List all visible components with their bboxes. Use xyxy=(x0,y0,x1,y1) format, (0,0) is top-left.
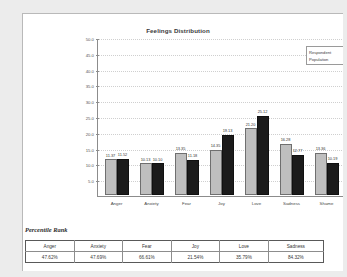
table-cell-percentile: 21.54% xyxy=(171,252,220,263)
bar-group: 14.3519.13Joy xyxy=(204,39,239,195)
percentile-rank-caption: Percentile Rank xyxy=(25,226,67,233)
table-column-header: Sadness xyxy=(268,241,323,252)
table-column-header: Fear xyxy=(123,241,172,252)
bar-slot: 13.35 xyxy=(175,39,187,195)
table-column-header: Anger xyxy=(26,241,75,252)
table-column-header: Joy xyxy=(171,241,220,252)
bar[interactable] xyxy=(210,150,222,195)
legend-label-respondent: Respondent xyxy=(309,50,342,55)
x-axis-category-label: Anxiety xyxy=(144,201,158,206)
bar[interactable] xyxy=(257,116,269,195)
bar-value-label: 10.19 xyxy=(328,156,338,161)
bar-slot: 11.52 xyxy=(117,39,129,195)
bar-slot: 10.10 xyxy=(152,39,164,195)
bar-value-label: 11.37 xyxy=(106,153,115,158)
bar[interactable] xyxy=(280,144,292,195)
x-axis-category-label: Love xyxy=(252,201,262,206)
legend-label-population: Population xyxy=(309,57,342,62)
table-column-header: Anxiety xyxy=(74,241,123,252)
bar-group: 21.2025.12Love xyxy=(239,39,274,195)
bar-value-label: 19.13 xyxy=(223,128,233,133)
bar[interactable] xyxy=(187,160,199,195)
chart-legend: Respondent Population xyxy=(306,46,343,65)
bar[interactable] xyxy=(245,128,257,195)
bar-slot: 12.77 xyxy=(292,39,304,195)
bar-slot: 11.18 xyxy=(187,39,199,195)
bar-value-label: 14.35 xyxy=(211,143,221,148)
bar-slot: 16.28 xyxy=(280,39,292,195)
bar-value-label: 25.12 xyxy=(258,109,268,114)
bar-group: 13.3511.18Fear xyxy=(169,39,204,195)
legend-item-respondent: Respondent xyxy=(309,49,343,56)
table-header-row: AngerAnxietyFearJoyLoveSadness xyxy=(26,241,324,252)
percentile-rank-table: AngerAnxietyFearJoyLoveSadness47.62%47.6… xyxy=(25,240,324,263)
x-axis-category-label: Anger xyxy=(111,201,123,206)
bar-slot: 21.20 xyxy=(245,39,257,195)
table-cell-percentile: 47.69% xyxy=(74,252,123,263)
bar[interactable] xyxy=(292,155,304,195)
bar[interactable] xyxy=(117,159,129,195)
bar[interactable] xyxy=(152,163,164,195)
document-page: Feelings Distribution 5.010.015.020.025.… xyxy=(22,13,343,271)
bar-value-label: 21.20 xyxy=(246,122,256,127)
bar-group: 11.3711.52Anger xyxy=(99,39,134,195)
bar-slot: 19.13 xyxy=(222,39,234,195)
bar-value-label: 10.10 xyxy=(153,157,163,162)
bar-value-label: 12.77 xyxy=(293,148,303,153)
bar[interactable] xyxy=(315,153,327,195)
bar-slot: 25.12 xyxy=(257,39,269,195)
bar-slot: 14.35 xyxy=(210,39,222,195)
bar-value-label: 11.52 xyxy=(118,152,127,157)
bar[interactable] xyxy=(327,163,339,195)
bar[interactable] xyxy=(222,135,234,195)
table-cell-percentile: 66.61% xyxy=(123,252,172,263)
bar-value-label: 13.35 xyxy=(176,146,186,151)
bar-value-label: 13.36 xyxy=(316,146,326,151)
feelings-distribution-chart: Feelings Distribution 5.010.015.020.025.… xyxy=(23,14,343,219)
x-axis-category-label: Fear xyxy=(182,201,191,206)
x-axis-category-label: Sadness xyxy=(283,201,300,206)
table-cell-percentile: 84.32% xyxy=(268,252,323,263)
x-axis-category-label: Shame xyxy=(320,201,334,206)
bar-group: 10.1310.10Anxiety xyxy=(134,39,169,195)
bar-slot: 11.37 xyxy=(105,39,117,195)
bar[interactable] xyxy=(105,159,117,195)
bar-value-label: 11.18 xyxy=(188,153,197,158)
table-column-header: Love xyxy=(220,241,269,252)
bar-value-label: 16.28 xyxy=(281,137,291,142)
bar-slot: 10.13 xyxy=(140,39,152,195)
table-row: 47.62%47.69%66.61%21.54%35.79%84.32% xyxy=(26,252,324,263)
table-cell-percentile: 47.62% xyxy=(26,252,75,263)
bar-group: 16.2812.77Sadness xyxy=(274,39,309,195)
table-cell-percentile: 35.79% xyxy=(220,252,269,263)
bar[interactable] xyxy=(140,163,152,195)
bar-value-label: 10.13 xyxy=(141,157,151,162)
bar[interactable] xyxy=(175,153,187,195)
legend-item-population: Population xyxy=(309,56,343,63)
chart-title: Feelings Distribution xyxy=(53,27,303,34)
x-axis-category-label: Joy xyxy=(218,201,225,206)
